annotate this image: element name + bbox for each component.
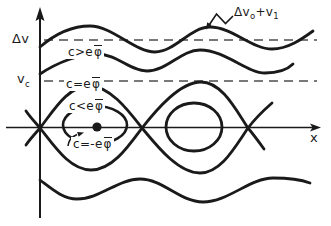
label-c-greater-e-phi: c>eφ: [66, 45, 104, 59]
label-v-c: vc: [17, 72, 30, 85]
label-delta-v: Δv: [12, 32, 29, 45]
label-c-equal-e-phi: c=eφ: [64, 77, 102, 91]
annotation-zigzag-leader: [210, 14, 234, 25]
untrapped-orbit-bottom-curve: [40, 178, 310, 202]
label-c-less-e-phi: c<eφ: [67, 99, 105, 113]
phase-space-diagram: Δv vc c>eφ c=eφ c<eφ c=-eφ Δvo+v1 x: [0, 0, 331, 226]
o-point-dot: [92, 122, 101, 131]
phase-space-plot-canvas: [0, 0, 331, 226]
label-delta-v0-plus-v1: Δvo+v1: [234, 6, 279, 19]
label-c-equal-minus-e-phi: c=-eφ: [71, 137, 114, 151]
label-x-axis: x: [310, 131, 318, 144]
